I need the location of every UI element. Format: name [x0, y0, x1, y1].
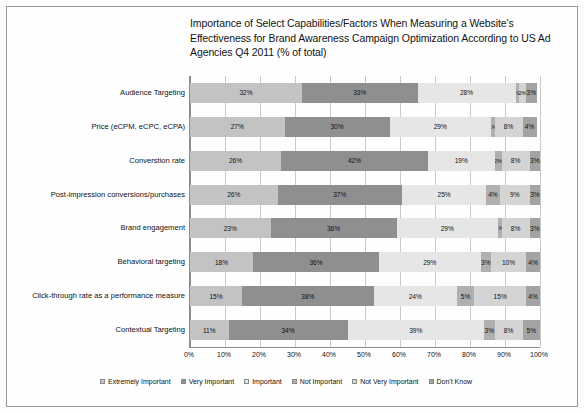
- legend-swatch-icon: [181, 379, 186, 384]
- legend-label: Extremely Important: [108, 378, 171, 385]
- bar-segment[interactable]: 29%: [379, 252, 481, 272]
- bar-row[interactable]: 26%37%25%4%9%3%: [190, 185, 540, 205]
- legend-swatch-icon: [100, 379, 105, 384]
- bar-segment[interactable]: 15%: [190, 286, 242, 306]
- bar-segment[interactable]: 5%: [457, 286, 474, 306]
- legend-item[interactable]: Don't Know: [429, 378, 473, 385]
- x-tick-label: 0%: [174, 351, 204, 358]
- bar-segment[interactable]: 4%: [526, 286, 540, 306]
- category-label: Behavioral targeting: [0, 257, 185, 266]
- bar-segment[interactable]: 38%: [242, 286, 374, 306]
- bar-segment[interactable]: 27%: [190, 117, 285, 137]
- chart-title: Importance of Select Capabilities/Factor…: [190, 16, 556, 60]
- bar-segment[interactable]: 24%: [374, 286, 457, 306]
- legend-swatch-icon: [429, 379, 434, 384]
- bar-segment[interactable]: 28%: [418, 83, 516, 103]
- bar-row[interactable]: 15%38%24%5%15%4%: [190, 286, 540, 306]
- x-tick-label: 20%: [244, 351, 274, 358]
- bar-segment[interactable]: 36%: [253, 252, 379, 272]
- bar-segment[interactable]: 10%: [491, 252, 526, 272]
- bar-segment[interactable]: 33%: [302, 83, 418, 103]
- category-label: Brand engagement: [0, 223, 185, 232]
- legend-label: Important: [252, 378, 282, 385]
- legend-label: Don't Know: [437, 378, 473, 385]
- bar-segment[interactable]: 11%: [190, 320, 229, 340]
- bar-rows: 32%33%28%1%2%3%27%30%29%1%8%4%26%42%19%2…: [190, 76, 540, 347]
- bar-segment[interactable]: 3%: [481, 252, 492, 272]
- bar-segment[interactable]: 4%: [526, 252, 540, 272]
- bar-segment[interactable]: 29%: [397, 218, 499, 238]
- bar-segment[interactable]: 3%: [484, 320, 495, 340]
- bar-segment[interactable]: 19%: [428, 151, 495, 171]
- legend-item[interactable]: Important: [244, 378, 282, 385]
- bar-row[interactable]: 11%34%39%3%8%5%: [190, 320, 540, 340]
- bar-segment[interactable]: 2%: [519, 83, 526, 103]
- bar-segment[interactable]: 4%: [486, 185, 499, 205]
- category-label: Price (eCPM, eCPC, eCPA): [0, 122, 185, 131]
- bar-segment[interactable]: 8%: [495, 117, 523, 137]
- bar-row[interactable]: 18%36%29%3%10%4%: [190, 252, 540, 272]
- category-label: Audience Targeting: [0, 88, 185, 97]
- legend-label: Not Very Important: [360, 378, 418, 385]
- x-tick-label: 90%: [489, 351, 519, 358]
- bar-segment[interactable]: 18%: [190, 252, 253, 272]
- x-tick-label: 40%: [314, 351, 344, 358]
- category-label: Post-impression conversions/purchases: [0, 190, 185, 199]
- bar-segment[interactable]: 36%: [271, 218, 397, 238]
- legend-label: Not Important: [300, 378, 342, 385]
- legend-swatch-icon: [292, 379, 297, 384]
- bar-segment[interactable]: 8%: [502, 151, 530, 171]
- chart-legend: Extremely ImportantVery ImportantImporta…: [100, 378, 540, 385]
- bar-row[interactable]: 32%33%28%1%2%3%: [190, 83, 540, 103]
- category-label: Contextual Targeting: [0, 325, 185, 334]
- bar-segment[interactable]: 8%: [502, 218, 530, 238]
- bar-segment[interactable]: 8%: [495, 320, 523, 340]
- bar-segment[interactable]: 25%: [402, 185, 486, 205]
- chart-page: Importance of Select Capabilities/Factor…: [0, 0, 584, 413]
- legend-label: Very Important: [189, 378, 235, 385]
- gridline: [540, 76, 541, 347]
- bar-segment[interactable]: 3%: [530, 185, 540, 205]
- bar-segment[interactable]: 3%: [526, 83, 537, 103]
- bar-segment[interactable]: 9%: [500, 185, 530, 205]
- x-tick-label: 50%: [349, 351, 379, 358]
- bar-row[interactable]: 26%42%19%2%8%3%: [190, 151, 540, 171]
- bar-segment[interactable]: 23%: [190, 218, 271, 238]
- bar-segment[interactable]: 5%: [523, 320, 541, 340]
- x-tick-label: 10%: [209, 351, 239, 358]
- bar-segment[interactable]: 3%: [530, 218, 541, 238]
- category-label: Click-through rate as a performance meas…: [0, 291, 185, 300]
- legend-item[interactable]: Not Very Important: [352, 378, 418, 385]
- bar-segment[interactable]: 2%: [495, 151, 502, 171]
- legend-swatch-icon: [244, 379, 249, 384]
- x-tick-label: 70%: [419, 351, 449, 358]
- bar-segment[interactable]: 39%: [348, 320, 485, 340]
- bar-segment[interactable]: 42%: [281, 151, 428, 171]
- legend-item[interactable]: Not Important: [292, 378, 342, 385]
- plot-area: 32%33%28%1%2%3%27%30%29%1%8%4%26%42%19%2…: [189, 76, 540, 348]
- bar-segment[interactable]: 34%: [229, 320, 348, 340]
- bar-segment[interactable]: 32%: [190, 83, 302, 103]
- bar-segment[interactable]: 4%: [523, 117, 537, 137]
- legend-swatch-icon: [352, 379, 357, 384]
- legend-item[interactable]: Extremely Important: [100, 378, 171, 385]
- bar-segment[interactable]: 3%: [530, 151, 541, 171]
- bar-segment[interactable]: 26%: [190, 151, 281, 171]
- x-tick-label: 100%: [524, 351, 554, 358]
- x-tick-label: 60%: [384, 351, 414, 358]
- bar-row[interactable]: 23%36%29%1%8%3%: [190, 218, 540, 238]
- x-tick-label: 30%: [279, 351, 309, 358]
- bar-segment[interactable]: 15%: [474, 286, 526, 306]
- bar-segment[interactable]: 30%: [285, 117, 390, 137]
- legend-item[interactable]: Very Important: [181, 378, 235, 385]
- category-label: Converstion rate: [0, 156, 185, 165]
- bar-segment[interactable]: 26%: [190, 185, 278, 205]
- bar-row[interactable]: 27%30%29%1%8%4%: [190, 117, 540, 137]
- x-tick-label: 80%: [454, 351, 484, 358]
- bar-segment[interactable]: 37%: [278, 185, 403, 205]
- bar-segment[interactable]: 29%: [390, 117, 492, 137]
